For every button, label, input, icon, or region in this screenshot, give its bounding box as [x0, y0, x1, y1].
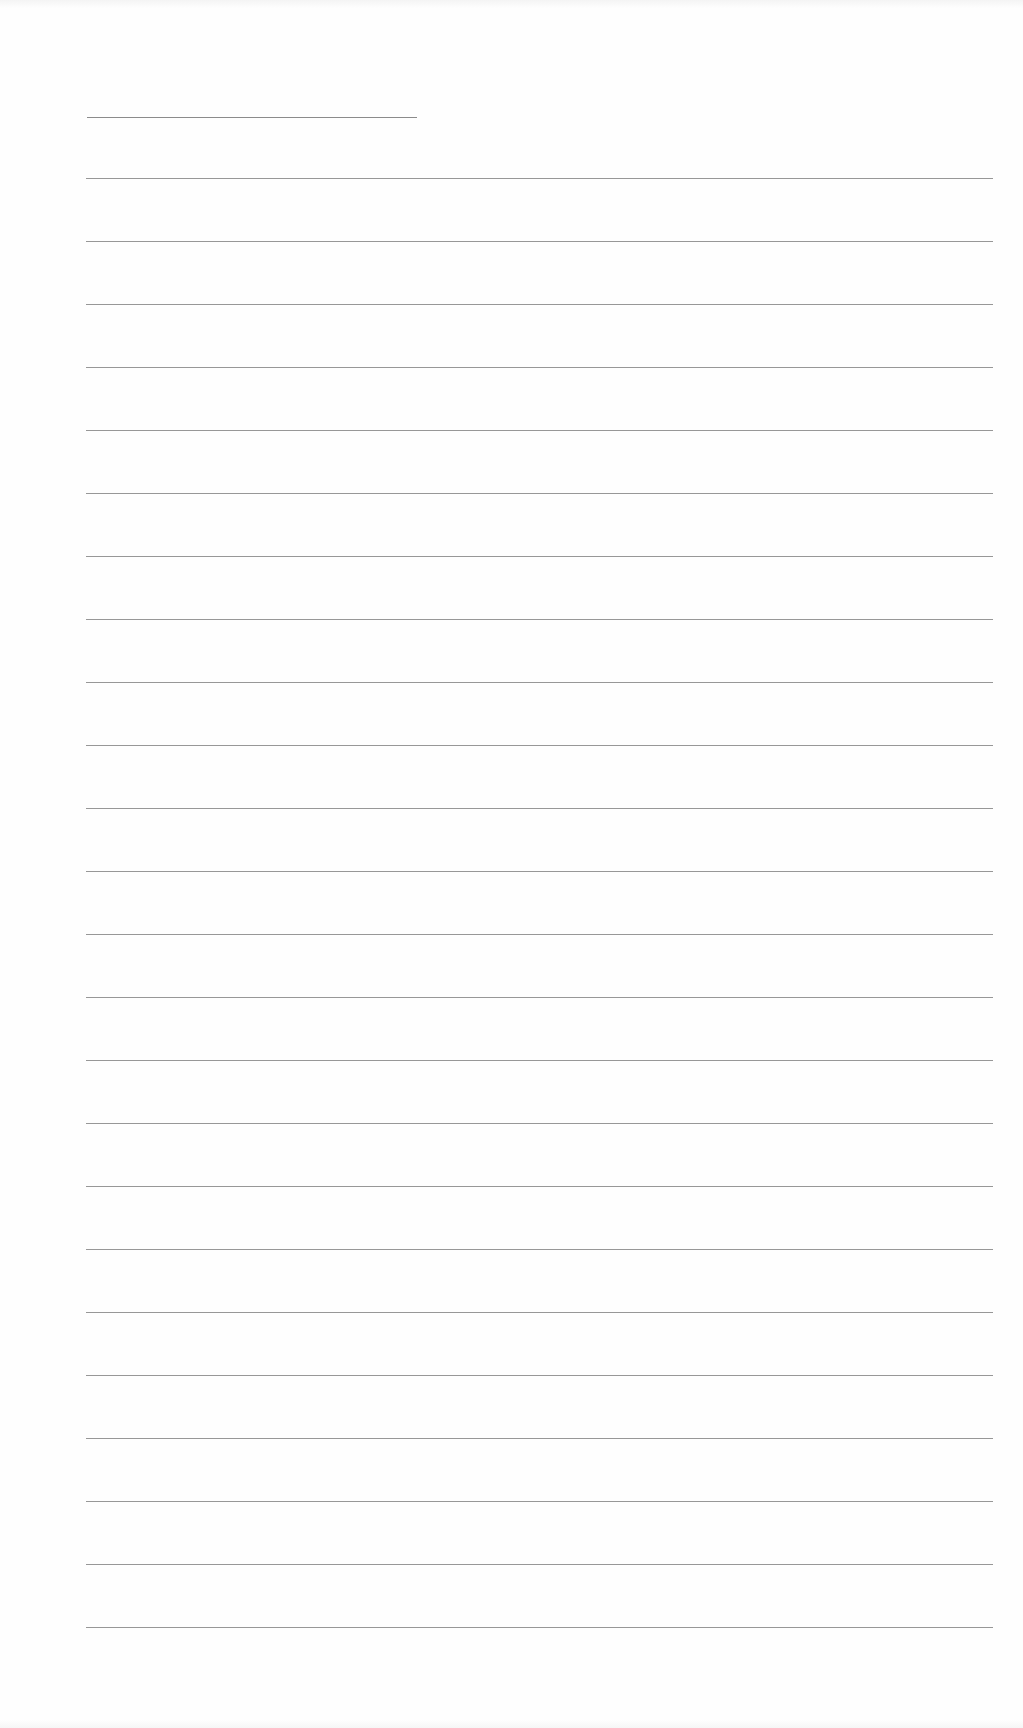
- name-line: [87, 117, 417, 118]
- ruled-line: [86, 1060, 993, 1061]
- ruled-line: [86, 1438, 993, 1439]
- ruled-line: [86, 997, 993, 998]
- ruled-line: [86, 556, 993, 557]
- ruled-line: [86, 493, 993, 494]
- ruled-line: [86, 430, 993, 431]
- ruled-line: [86, 808, 993, 809]
- ruled-line: [86, 1375, 993, 1376]
- ruled-line: [86, 1186, 993, 1187]
- ruled-line: [86, 1123, 993, 1124]
- ruled-line: [86, 367, 993, 368]
- scan-edge-bottom: [0, 1720, 1023, 1728]
- ruled-line: [86, 178, 993, 179]
- ruled-line: [86, 682, 993, 683]
- ruled-line: [86, 1249, 993, 1250]
- ruled-line: [86, 304, 993, 305]
- ruled-line: [86, 745, 993, 746]
- ruled-line: [86, 934, 993, 935]
- scan-edge-top: [0, 0, 1023, 8]
- ruled-line: [86, 1501, 993, 1502]
- ruled-line: [86, 1564, 993, 1565]
- ruled-line: [86, 241, 993, 242]
- ruled-line: [86, 1312, 993, 1313]
- lined-paper-page: [0, 0, 1023, 1728]
- ruled-line: [86, 871, 993, 872]
- ruled-line: [86, 1627, 993, 1628]
- ruled-line: [86, 619, 993, 620]
